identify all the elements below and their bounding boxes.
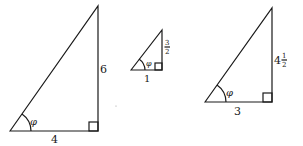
similar-triangles-diagram: φ 4 6 φ 1 3 2 φ 3 4 1 2 (0, 0, 303, 146)
angle-arc (139, 59, 145, 70)
height-label: 6 (100, 63, 107, 76)
triangle-outline (10, 6, 98, 131)
right-angle-marker (263, 93, 272, 102)
base-label: 1 (144, 73, 150, 84)
triangle-small-middle: φ 1 3 2 (131, 30, 170, 84)
base-label: 4 (51, 133, 58, 146)
angle-label: φ (146, 59, 152, 68)
triangle-large-left: φ 4 6 (10, 6, 107, 146)
height-whole: 4 (274, 54, 281, 67)
speck (115, 105, 116, 106)
height-numerator: 1 (282, 52, 286, 60)
height-denominator: 2 (282, 61, 286, 69)
right-angle-marker (155, 63, 162, 70)
angle-label: φ (226, 87, 233, 98)
height-denominator: 2 (165, 48, 169, 56)
triangle-right: φ 3 4 1 2 (205, 8, 287, 118)
base-label: 3 (234, 105, 241, 118)
angle-arc (217, 85, 226, 102)
right-angle-marker (89, 122, 98, 131)
angle-label: φ (30, 116, 37, 127)
height-numerator: 3 (165, 39, 169, 47)
triangle-outline (205, 8, 272, 102)
